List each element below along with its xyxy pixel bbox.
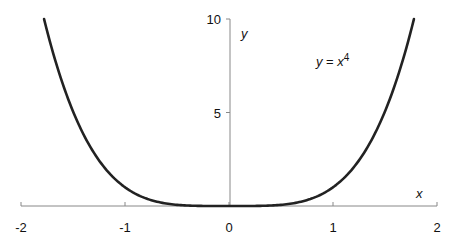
x-tick-label: 1	[329, 220, 336, 235]
y-tick-label: 5	[214, 106, 221, 121]
x-tick-label: -1	[119, 220, 131, 235]
x-tick-label: 0	[225, 220, 232, 235]
equation-annotation: y = x4	[315, 52, 350, 69]
y-tick-label: 10	[207, 12, 221, 27]
equation-equals: =	[323, 54, 338, 69]
x-tick-label: 2	[433, 220, 440, 235]
y-axis-title: y	[240, 26, 249, 41]
x-axis-title: x	[415, 186, 423, 201]
x-tick-label: -2	[15, 220, 27, 235]
y-axis: 510	[207, 12, 230, 206]
chart: -2-1012 510 x y y = x4	[0, 0, 454, 247]
equation-exponent: 4	[344, 52, 350, 63]
